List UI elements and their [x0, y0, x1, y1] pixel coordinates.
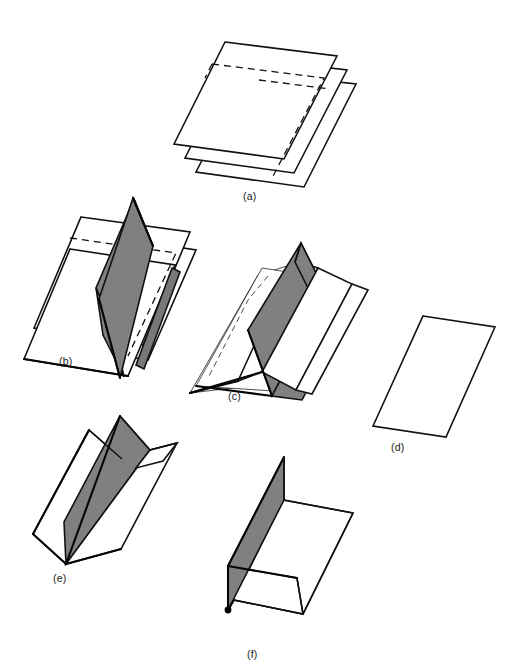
panel-b-group [24, 198, 196, 378]
panel-label-c: (c) [228, 390, 241, 402]
panel-d-group [373, 316, 495, 437]
panel-label-b: (b) [59, 355, 72, 367]
panel-e-group [33, 416, 177, 564]
panel-label-a: (a) [243, 190, 256, 202]
figure-container: (a) (b) (c) (d) (e) (f) [0, 0, 522, 671]
panel-f-group [225, 457, 353, 614]
panel-label-e: (e) [53, 572, 66, 584]
panel-label-f: (f) [247, 648, 258, 660]
panel-c-group [190, 243, 368, 400]
panel-label-d: (d) [391, 441, 404, 453]
panel-a-group [174, 42, 356, 187]
panel-f-hinge-point-dot [225, 607, 232, 614]
figure-drawing [0, 0, 522, 671]
panel-d-sheet [373, 316, 495, 437]
